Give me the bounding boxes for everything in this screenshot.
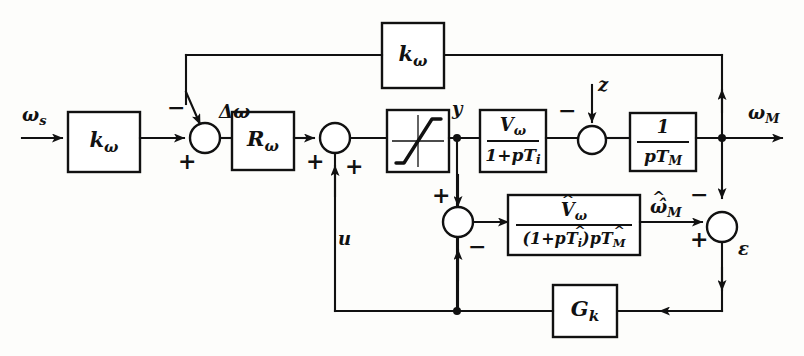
summing-junction-observer-error[interactable] [707, 212, 737, 242]
hat-mark-icon: ^ [613, 224, 624, 238]
sign-plus-sum-observer-error: + [690, 228, 708, 250]
observer-numerator: ^Vω [509, 201, 639, 223]
block-label-k-omega-forward: kω [90, 129, 119, 154]
subscript-omega: ω [514, 123, 526, 138]
sign-minus-sum-observer-input: − [468, 235, 486, 257]
signal-label-disturbance: z [598, 76, 608, 94]
signal-label-output-speed: ωM [748, 104, 779, 126]
signal-label-input-reference: ωs [22, 106, 46, 128]
hat-mark-icon: ^ [652, 190, 665, 205]
hat-accent-omega: ^ω̂ [650, 198, 667, 216]
subscript-s: s [39, 113, 46, 128]
subscript-omega: ω [575, 208, 587, 223]
hat-mark-icon: ^ [574, 224, 585, 238]
sign-plus-sum-control-bottom: + [345, 155, 363, 177]
signal-label-control-deviation: Δω [219, 103, 250, 121]
v-omega-denominator: 1+pTi [481, 147, 545, 167]
integrator-numerator: 1 [631, 118, 695, 136]
block-label-k-omega-feedback: kω [399, 43, 428, 68]
summing-junction-control[interactable] [320, 123, 350, 153]
signal-label-limiter-output: y [452, 100, 462, 118]
block-label-g-k: Gk [571, 298, 599, 323]
signal-label-observer-speed: ^ω̂M [650, 198, 681, 220]
junction-dot-omega-m [718, 134, 726, 142]
hat-accent-v: ^V [561, 201, 575, 219]
hat-accent-ti: ^i [578, 231, 582, 250]
hat-mark-icon: ^ [561, 193, 574, 208]
block-diagram-canvas: kω Rω kω Gk Vω 1+pTi 1 pTM ^Vω (1+pT^i)p… [0, 0, 804, 356]
sign-minus-sum-error: − [167, 96, 185, 118]
observer-denominator: (1+pT^i)pT^M [509, 231, 639, 250]
signal-label-observer-error: ε [738, 240, 749, 258]
signal-label-compensation: u [338, 230, 351, 248]
subscript-m: M [765, 111, 779, 126]
subscript-omega: ω [413, 52, 427, 70]
subscript-m: M [669, 154, 683, 168]
summing-junction-disturbance[interactable] [578, 126, 606, 154]
sign-plus-sum-control-left: + [306, 150, 324, 172]
sign-minus-sum-disturbance: − [558, 99, 576, 121]
integrator-denominator: pTM [631, 148, 695, 168]
sign-plus-sum-error: + [178, 150, 196, 172]
subscript-k: k [589, 307, 599, 325]
subscript-omega: ω [265, 137, 279, 155]
subscript-omega: ω [104, 138, 118, 156]
subscript-i: i [536, 153, 541, 167]
sign-minus-sum-observer-error: − [690, 183, 708, 205]
v-omega-numerator: Vω [481, 116, 545, 138]
subscript-m: M [667, 205, 681, 220]
block-label-r-omega: Rω [247, 128, 279, 153]
hat-accent-tm: ^M [613, 231, 626, 250]
sign-plus-sum-observer-input: + [432, 184, 450, 206]
